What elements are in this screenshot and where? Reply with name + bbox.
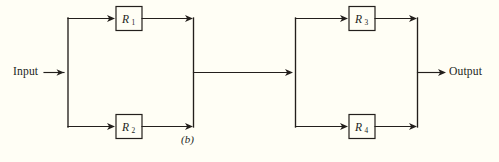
figure-caption: (b) bbox=[181, 133, 194, 145]
component-box-r2: R 2 bbox=[116, 115, 142, 139]
r3-subscript: 3 bbox=[365, 18, 369, 27]
component-box-r1: R 1 bbox=[116, 7, 142, 31]
r1-subscript: 1 bbox=[132, 18, 136, 27]
input-terminal-label: Input bbox=[13, 65, 38, 78]
r4-output-wire bbox=[375, 123, 417, 130]
r2-label: R bbox=[121, 121, 129, 133]
r2-subscript: 2 bbox=[132, 126, 136, 135]
r3-input-wire bbox=[296, 15, 349, 22]
r1-input-wire bbox=[68, 15, 115, 22]
component-box-r4: R 4 bbox=[349, 115, 375, 139]
r2-output-wire bbox=[142, 123, 193, 130]
r3-output-wire bbox=[375, 15, 417, 22]
r3-label: R bbox=[354, 13, 362, 25]
r4-input-wire bbox=[296, 123, 349, 130]
output-terminal-label: Output bbox=[449, 65, 482, 78]
r1-output-wire bbox=[142, 15, 193, 22]
r4-subscript: 4 bbox=[365, 126, 369, 135]
series-interconnect-wire bbox=[194, 69, 294, 76]
input-feed-wire bbox=[44, 69, 64, 76]
diagram-canvas: R 1 R 2 bbox=[0, 0, 499, 162]
reliability-block-diagram-figure: R 1 R 2 bbox=[0, 0, 499, 162]
r2-input-wire bbox=[68, 123, 115, 130]
r4-label: R bbox=[354, 121, 362, 133]
r1-label: R bbox=[121, 13, 129, 25]
component-box-r3: R 3 bbox=[349, 7, 375, 31]
output-feed-wire bbox=[418, 69, 447, 76]
